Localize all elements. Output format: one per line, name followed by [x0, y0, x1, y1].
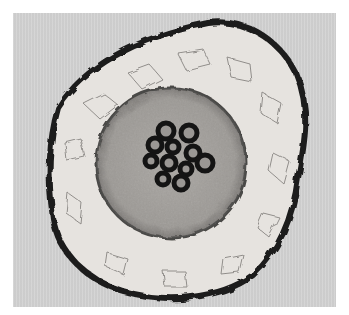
root-cross-section — [13, 13, 336, 307]
micrograph-photo — [13, 13, 336, 307]
